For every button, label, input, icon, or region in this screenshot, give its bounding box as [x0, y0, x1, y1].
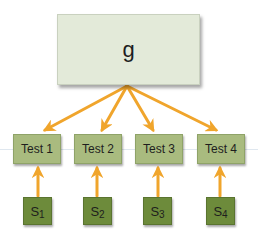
source-node-label: S1: [30, 204, 44, 219]
test-node-label: Test 2: [82, 142, 114, 156]
test-node-label: Test 1: [21, 142, 53, 156]
test-node-3: Test 3: [135, 134, 183, 164]
source-base: S: [213, 204, 222, 219]
root-node-g: g: [57, 14, 200, 85]
source-node-4: S4: [206, 197, 235, 225]
source-base: S: [30, 204, 39, 219]
source-subscript: 1: [39, 209, 45, 220]
source-node-1: S1: [23, 197, 52, 225]
edges-sources-to-tests: [38, 168, 220, 196]
test-node-4: Test 4: [197, 134, 245, 164]
source-node-label: S2: [90, 204, 104, 219]
source-subscript: 2: [99, 209, 105, 220]
source-subscript: 3: [159, 209, 165, 220]
source-node-2: S2: [83, 197, 112, 225]
edges-g-to-tests: [45, 86, 216, 130]
source-base: S: [150, 204, 159, 219]
source-base: S: [90, 204, 99, 219]
test-node-label: Test 4: [205, 142, 237, 156]
source-node-3: S3: [143, 197, 172, 225]
source-subscript: 4: [222, 209, 228, 220]
test-node-2: Test 2: [74, 134, 122, 164]
source-node-label: S4: [213, 204, 227, 219]
source-node-label: S3: [150, 204, 164, 219]
diagram-canvas: g Test 1 Test 2 Test 3 Test 4 S1 S2 S3 S…: [0, 0, 258, 238]
root-node-label: g: [122, 37, 134, 63]
test-node-label: Test 3: [143, 142, 175, 156]
test-node-1: Test 1: [13, 134, 61, 164]
